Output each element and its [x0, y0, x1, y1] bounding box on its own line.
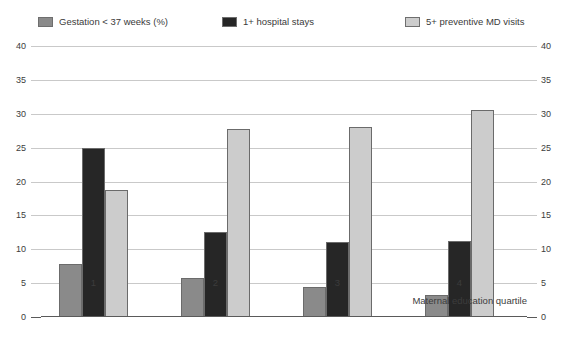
bar[interactable]	[204, 232, 227, 317]
axis-tick-right	[527, 148, 537, 149]
axis-tick-right	[527, 249, 537, 250]
axis-tick-left	[31, 317, 41, 318]
axis-tick-right	[527, 80, 537, 81]
bar[interactable]	[105, 190, 128, 317]
axis-tick-left	[31, 283, 41, 284]
axis-tick-left	[31, 249, 41, 250]
x-tick-label: 2	[186, 278, 246, 288]
axis-tick-left	[31, 80, 41, 81]
legend-label: 5+ preventive MD visits	[426, 17, 524, 27]
axis-tick-left	[31, 215, 41, 216]
axis-tick-left	[31, 114, 41, 115]
axis-tick-right	[527, 283, 537, 284]
y-tick-label-left: 5	[0, 279, 26, 288]
legend-entry-2[interactable]: 5+ preventive MD visits	[405, 14, 524, 30]
y-tick-label-left: 40	[0, 42, 26, 51]
y-tick-label-right: 40	[541, 42, 568, 51]
y-tick-label-right: 15	[541, 211, 568, 220]
bar[interactable]	[227, 129, 250, 317]
axis-tick-right	[527, 114, 537, 115]
y-tick-label-right: 20	[541, 178, 568, 187]
x-tick-label: 4	[430, 278, 490, 288]
legend-entry-0[interactable]: Gestation < 37 weeks (%)	[38, 14, 168, 30]
axis-tick-right	[527, 46, 537, 47]
x-axis-title: Maternal education quartile	[412, 296, 527, 306]
bar[interactable]	[82, 148, 105, 317]
y-tick-label-right: 35	[541, 76, 568, 85]
y-tick-label-left: 30	[0, 110, 26, 119]
legend-label: 1+ hospital stays	[243, 17, 314, 27]
y-tick-label-left: 20	[0, 178, 26, 187]
axis-tick-right	[527, 182, 537, 183]
y-tick-label-right: 25	[541, 144, 568, 153]
bar[interactable]	[349, 127, 372, 317]
legend-label: Gestation < 37 weeks (%)	[59, 17, 168, 27]
y-tick-label-left: 10	[0, 245, 26, 254]
x-axis-line	[41, 316, 527, 317]
plot-area	[41, 46, 527, 317]
axis-tick-left	[31, 46, 41, 47]
axis-tick-right	[527, 317, 537, 318]
y-tick-label-right: 30	[541, 110, 568, 119]
y-tick-label-right: 0	[541, 313, 568, 322]
x-tick-label: 1	[64, 278, 124, 288]
x-tick-label: 3	[308, 278, 368, 288]
chart-legend: Gestation < 37 weeks (%)1+ hospital stay…	[0, 14, 568, 30]
axis-tick-left	[31, 148, 41, 149]
y-tick-label-left: 35	[0, 76, 26, 85]
legend-swatch-icon	[222, 17, 237, 27]
bar[interactable]	[59, 264, 82, 317]
legend-swatch-icon	[405, 17, 420, 27]
y-tick-label-left: 0	[0, 313, 26, 322]
y-tick-label-right: 10	[541, 245, 568, 254]
axis-tick-left	[31, 182, 41, 183]
legend-entry-1[interactable]: 1+ hospital stays	[222, 14, 314, 30]
legend-swatch-icon	[38, 17, 53, 27]
bar[interactable]	[303, 287, 326, 317]
y-tick-label-left: 15	[0, 211, 26, 220]
y-tick-label-left: 25	[0, 144, 26, 153]
y-tick-label-right: 5	[541, 279, 568, 288]
axis-tick-right	[527, 215, 537, 216]
chart-figure: Gestation < 37 weeks (%)1+ hospital stay…	[0, 0, 568, 346]
